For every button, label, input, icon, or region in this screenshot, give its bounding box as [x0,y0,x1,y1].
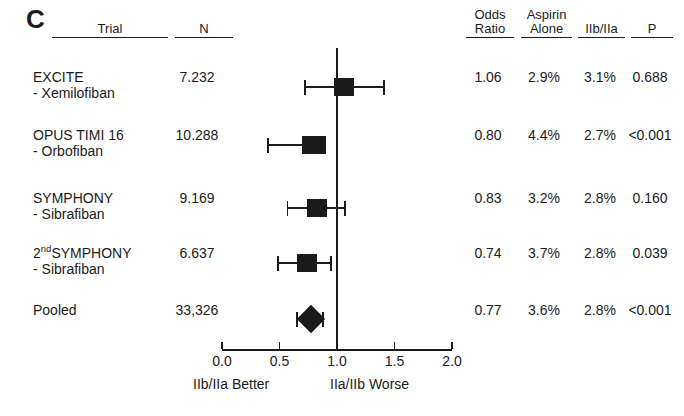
odds-ratio-value: 0.83 [462,191,514,207]
trial-name: 2ndSYMPHONY [33,246,132,262]
forest-plot-figure: C Trial N Odds Ratio Aspirin Alone IIb/I… [0,0,684,416]
x-axis-tick [279,342,281,349]
confidence-interval-cap [304,80,306,95]
column-header-aspirin-alone: Aspirin Alone [521,8,572,38]
trial-n-value: 6.637 [161,246,233,262]
axis-caption-right: IIa/IIb Worse [330,377,409,392]
panel-letter: C [26,6,45,32]
odds-ratio-value: 0.74 [462,246,514,262]
p-value: 0.039 [622,246,678,262]
odds-ratio-value: 1.06 [462,70,514,86]
pooled-estimate-diamond [296,305,324,333]
x-axis-tick-label: 2.0 [427,354,477,369]
trial-n-value: 7.232 [161,70,233,86]
confidence-interval-line [268,144,303,146]
iib-iiia-value: 2.7% [574,128,626,144]
p-value: 0.160 [622,191,678,207]
p-value: <0.001 [622,303,678,319]
column-header-odds-ratio: Odds Ratio [466,8,514,38]
confidence-interval-cap [322,312,324,327]
x-axis-tick-label: 0.5 [255,354,305,369]
trial-n-value: 33,326 [161,303,233,319]
aspirin-alone-value: 3.6% [518,303,570,319]
trial-n-value: 9.169 [161,191,233,207]
iib-iiia-value: 2.8% [574,191,626,207]
trial-drug-name: - Sibrafiban [33,207,105,223]
confidence-interval-cap [287,201,289,216]
trial-drug-name: - Orbofiban [33,144,103,160]
trial-drug-name: - Sibrafiban [33,262,105,278]
confidence-interval-cap [383,80,385,95]
column-header-n: N [175,22,233,38]
confidence-interval-line [297,318,323,320]
p-value: 0.688 [622,70,678,86]
confidence-interval-line [288,207,346,209]
x-axis-tick [336,342,338,349]
axis-caption-left: IIb/IIa Better [193,377,269,392]
iib-iiia-value: 2.8% [574,246,626,262]
confidence-interval-line [278,262,331,264]
aspirin-alone-value: 4.4% [518,128,570,144]
x-axis-tick [451,342,453,349]
column-header-trial: Trial [52,22,168,38]
iib-iiia-value: 2.8% [574,303,626,319]
column-header-p: P [631,22,673,38]
confidence-interval-cap [302,138,304,153]
x-axis-tick [221,342,223,349]
column-header-iib-iiia: IIb/IIa [578,22,625,38]
x-axis-line [222,349,452,351]
iib-iiia-value: 3.1% [574,70,626,86]
point-estimate-square [334,78,354,96]
confidence-interval-cap [330,256,332,271]
odds-ratio-value: 0.77 [462,303,514,319]
confidence-interval-cap [344,201,346,216]
aspirin-alone-value: 3.2% [518,191,570,207]
trial-name: Pooled [33,303,77,319]
point-estimate-square [297,254,317,272]
x-axis-tick-label: 1.5 [370,354,420,369]
x-axis-tick-label: 1.0 [312,354,362,369]
odds-ratio-value: 0.80 [462,128,514,144]
confidence-interval-cap [277,256,279,271]
point-estimate-square [307,199,327,217]
trial-name: OPUS TIMI 16 [33,128,124,144]
confidence-interval-cap [267,138,269,153]
x-axis-tick [394,342,396,349]
trial-drug-name: - Xemilofiban [33,86,115,102]
reference-line [336,48,338,349]
aspirin-alone-value: 2.9% [518,70,570,86]
point-estimate-square [302,136,326,154]
p-value: <0.001 [622,128,678,144]
trial-name: EXCITE [33,70,84,86]
trial-n-value: 10.288 [161,128,233,144]
x-axis-tick-label: 0.0 [197,354,247,369]
confidence-interval-cap [296,312,298,327]
confidence-interval-line [305,86,384,88]
aspirin-alone-value: 3.7% [518,246,570,262]
trial-name: SYMPHONY [33,191,113,207]
